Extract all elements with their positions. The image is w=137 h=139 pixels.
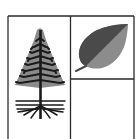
leaf-stem [76,66,86,71]
logo-svg [0,0,137,139]
leaf-icon [76,24,128,71]
conifer-tree-with-roots-icon [15,28,65,119]
logo-emblem [0,0,137,139]
